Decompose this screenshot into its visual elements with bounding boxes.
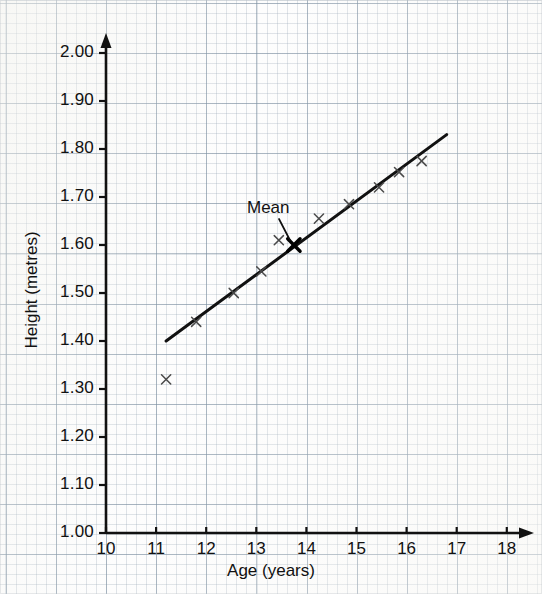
axes-group	[101, 33, 535, 539]
x-tick-label: 13	[236, 539, 276, 559]
data-point-marker	[417, 156, 426, 165]
x-axis-arrowhead	[519, 528, 534, 539]
mean-callout-leader	[279, 219, 290, 240]
data-points-group	[162, 156, 427, 384]
x-tick-label: 18	[487, 539, 527, 559]
y-axis-title: Height (metres)	[22, 200, 42, 380]
axis-ticks-group	[99, 53, 507, 533]
y-tick-label: 1.10	[32, 474, 94, 494]
data-point-marker	[257, 267, 266, 276]
mean-annotation-label: Mean	[247, 198, 290, 218]
x-tick-label: 16	[387, 539, 427, 559]
y-axis-arrowhead	[101, 33, 112, 48]
x-tick-label: 12	[186, 539, 226, 559]
data-point-marker	[162, 375, 171, 384]
y-tick-label: 1.80	[32, 138, 94, 158]
y-tick-label: 1.20	[32, 426, 94, 446]
data-point-marker	[274, 236, 283, 245]
x-tick-label: 15	[337, 539, 377, 559]
mean-leader-line	[279, 219, 290, 240]
best-fit-line-segment	[166, 135, 447, 341]
x-tick-label: 11	[136, 539, 176, 559]
y-tick-label: 1.90	[32, 90, 94, 110]
y-tick-label: 1.00	[32, 522, 94, 542]
y-tick-label: 1.30	[32, 378, 94, 398]
x-tick-label: 10	[86, 539, 126, 559]
line-of-best-fit	[166, 135, 447, 341]
x-axis-title: Age (years)	[0, 561, 542, 581]
x-tick-label: 17	[437, 539, 477, 559]
y-tick-label: 2.00	[32, 42, 94, 62]
x-tick-label: 14	[286, 539, 326, 559]
data-point-marker	[314, 214, 323, 223]
